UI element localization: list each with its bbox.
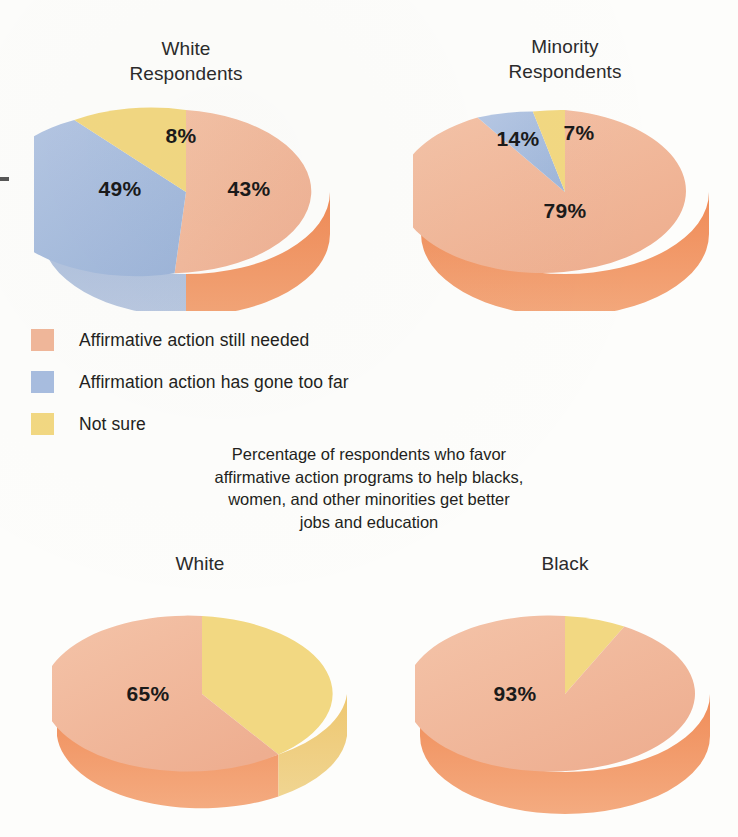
legend-swatch-icon [31, 329, 54, 351]
legend-item-gone-too-far: Affirmation action has gone too far [31, 371, 349, 393]
legend-swatch-icon [31, 413, 54, 435]
pie-svg-white-favor [52, 604, 352, 814]
legend-label: Affirmation action has gone too far [79, 372, 349, 393]
chart-title-black-favor: Black [465, 551, 665, 576]
pie-label-gone-too-far: 14% [496, 127, 539, 151]
pie-label-still-needed: 79% [543, 199, 586, 223]
chart-title-white-respondents: White Respondents [86, 36, 286, 86]
pie-slice-favor [415, 616, 695, 772]
pie-svg-black-favor [415, 604, 715, 814]
pie-label-not-sure: 8% [165, 124, 196, 148]
figure-caption: Percentage of respondents who favor affi… [119, 443, 619, 533]
pie-chart-minority-respondents: 14% 7% 79% [413, 96, 718, 311]
pie-label-favor: 93% [493, 682, 536, 706]
legend-item-not-sure: Not sure [31, 413, 349, 435]
legend-item-still-needed: Affirmative action still needed [31, 329, 349, 351]
pie-chart-black-favor: 93% [415, 604, 715, 814]
pie-label-gone-too-far: 49% [98, 177, 141, 201]
pie-label-still-needed: 43% [227, 177, 270, 201]
pie-chart-white-respondents: 49% 8% 43% [34, 96, 339, 311]
legend-label: Not sure [79, 414, 146, 435]
chart-title-white-favor: White [100, 551, 300, 576]
legend: Affirmative action still needed Affirmat… [31, 329, 349, 455]
figure-canvas: White Respondents [0, 0, 738, 837]
pie-chart-white-favor: 65% [52, 604, 352, 814]
chart-title-minority-respondents: Minority Respondents [465, 34, 665, 84]
legend-label: Affirmative action still needed [79, 330, 309, 351]
pie-label-favor: 65% [126, 682, 169, 706]
pie-label-not-sure: 7% [563, 121, 594, 145]
page-edge-mark [0, 177, 9, 181]
legend-swatch-icon [31, 371, 54, 393]
